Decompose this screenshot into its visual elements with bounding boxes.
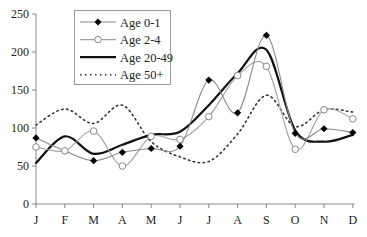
x-tick-label: N: [320, 213, 329, 227]
marker-open: [62, 148, 69, 155]
legend-label: Age 0-1: [120, 16, 161, 30]
legend-label: Age 20-49: [120, 51, 173, 65]
y-tick-label: 50: [17, 159, 29, 173]
marker-open: [206, 113, 213, 120]
series-line-age-50-: [36, 95, 353, 163]
y-tick-label: 0: [23, 197, 29, 211]
x-tick-label: J: [34, 213, 39, 227]
marker-filled: [320, 125, 327, 132]
x-tick-label: D: [348, 213, 357, 227]
marker-open: [119, 163, 126, 170]
x-tick-label: J: [206, 213, 211, 227]
marker-open: [292, 146, 299, 153]
y-tick-label: 200: [11, 45, 29, 59]
y-tick-label: 150: [11, 83, 29, 97]
x-tick-label: J: [178, 213, 183, 227]
marker-filled: [90, 157, 97, 164]
x-tick-label: S: [263, 213, 270, 227]
legend-label: Age 2-4: [120, 33, 161, 47]
x-tick-label: M: [146, 213, 157, 227]
marker-open: [177, 136, 184, 143]
line-chart: 050100150200250JFMAMJJASOND Age 0-1Age 2…: [0, 0, 367, 237]
legend: Age 0-1Age 2-4Age 20-49Age 50+: [75, 11, 174, 85]
x-tick-label: A: [233, 213, 242, 227]
marker-filled: [119, 149, 126, 156]
marker-open: [148, 133, 155, 140]
x-tick-label: M: [88, 213, 99, 227]
marker-open: [350, 116, 357, 123]
x-tick-label: A: [118, 213, 127, 227]
marker-open: [90, 128, 97, 135]
marker-filled: [32, 134, 39, 141]
legend-label: Age 50+: [120, 68, 164, 82]
y-tick-label: 250: [11, 7, 29, 21]
marker-filled: [148, 145, 155, 152]
legend-marker-open: [95, 36, 101, 42]
x-tick-label: O: [291, 213, 300, 227]
marker-open: [234, 72, 241, 79]
marker-open: [263, 63, 270, 70]
marker-open: [33, 144, 40, 151]
x-tick-label: F: [61, 213, 68, 227]
marker-open: [321, 106, 328, 113]
y-tick-label: 100: [11, 121, 29, 135]
axes: 050100150200250JFMAMJJASOND: [11, 7, 357, 227]
